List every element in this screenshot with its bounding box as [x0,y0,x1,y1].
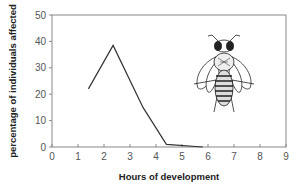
data-series [88,45,202,147]
bee-icon [194,35,254,112]
x-tick-label: 2 [101,151,107,162]
y-tick-label: 40 [35,36,47,47]
x-tick-label: 1 [75,151,81,162]
series-line-affected [88,45,202,147]
y-tick-label: 30 [35,62,47,73]
x-tick-label: 4 [153,151,159,162]
x-tick-label: 6 [205,151,211,162]
x-tick-label: 9 [283,151,289,162]
y-tick-label: 50 [35,10,47,21]
line-chart: 01020304050 0123456789 percentage of ind… [0,0,303,186]
x-tick-label: 8 [257,151,263,162]
x-axis-title: Hours of development [119,171,220,182]
x-tick-label: 5 [179,151,185,162]
x-tick-label: 7 [231,151,237,162]
y-axis: 01020304050 [35,10,52,153]
y-tick-label: 0 [40,142,46,153]
y-tick-label: 20 [35,89,47,100]
x-tick-label: 0 [49,151,55,162]
y-axis-title: percentage of individuals affected [7,4,18,158]
x-tick-label: 3 [127,151,133,162]
y-tick-label: 10 [35,115,47,126]
